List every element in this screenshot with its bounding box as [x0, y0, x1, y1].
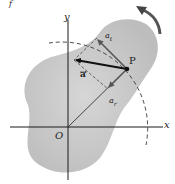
radial-accel-label: ar	[109, 97, 117, 107]
point-p	[125, 67, 130, 72]
tangential-accel-sub: t	[110, 35, 112, 42]
origin-label: O	[55, 131, 63, 141]
y-axis-label: y	[64, 12, 70, 22]
accel-label: a	[80, 70, 86, 79]
point-p-label: P	[129, 56, 136, 66]
diagram-canvas	[0, 0, 175, 184]
corner-mark: f	[9, 0, 12, 8]
radial-accel-sub: r	[114, 100, 117, 107]
tangential-accel-label: at	[105, 32, 112, 42]
x-axis-label: x	[164, 120, 170, 130]
rigid-body-shape	[24, 19, 157, 172]
